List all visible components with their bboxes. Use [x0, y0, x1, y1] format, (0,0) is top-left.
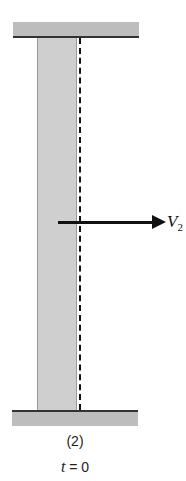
top-plate — [13, 22, 139, 38]
fluid-column — [37, 38, 77, 410]
velocity-arrow-shaft — [58, 221, 156, 224]
arrow-head-icon — [152, 215, 166, 229]
bottom-plate — [12, 410, 138, 426]
velocity-subscript: 2 — [177, 221, 183, 233]
velocity-symbol: V — [167, 212, 177, 231]
velocity-label: V2 — [167, 212, 183, 233]
time-value: = 0 — [65, 459, 89, 475]
time-label: t = 0 — [0, 458, 150, 476]
case-label: (2) — [0, 433, 150, 449]
dashed-reference-line — [79, 38, 81, 410]
